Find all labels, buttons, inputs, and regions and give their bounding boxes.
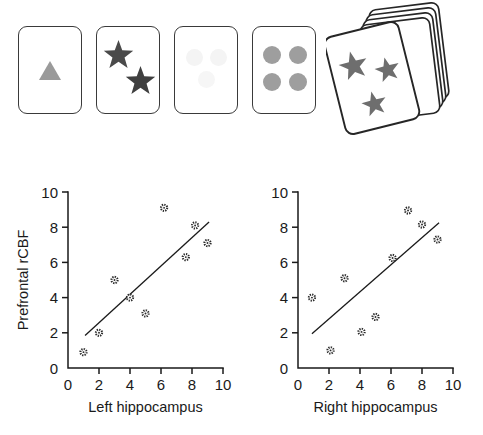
y-tick-label: 10 <box>41 184 58 201</box>
data-point-center <box>361 331 363 333</box>
card-deck <box>326 2 481 147</box>
data-point <box>341 275 347 281</box>
card-faint-shapes <box>174 26 238 114</box>
y-tick-label: 10 <box>271 184 288 201</box>
circle-shape <box>186 49 203 66</box>
data-point <box>204 240 210 246</box>
star-shape <box>125 66 156 97</box>
x-tick-label: 0 <box>64 376 72 393</box>
circle-shape <box>289 46 307 64</box>
circle-shape <box>210 49 227 66</box>
x-tick-label: 8 <box>418 376 426 393</box>
x-tick-label: 10 <box>445 376 462 393</box>
right-hippocampus-scatter-graphic: 02468100246810Right hippocampus <box>240 178 483 428</box>
data-point <box>127 295 133 301</box>
data-point <box>405 207 411 213</box>
x-tick-label: 4 <box>356 376 364 393</box>
x-tick-label: 0 <box>294 376 302 393</box>
circle-shape <box>198 71 215 88</box>
data-point-center <box>163 207 165 209</box>
axes <box>298 192 453 368</box>
data-point-center <box>114 279 116 281</box>
x-tick-label: 8 <box>188 376 196 393</box>
data-point <box>327 347 333 353</box>
card-triangle-shapes <box>19 27 81 113</box>
data-point <box>161 205 167 211</box>
y-tick-label: 2 <box>50 324 58 341</box>
y-tick-label: 8 <box>50 219 58 236</box>
data-point-center <box>185 256 187 258</box>
data-point-center <box>392 257 394 259</box>
scatter-chart-right: 02468100246810Right hippocampus <box>240 178 483 428</box>
x-axis-title: Left hippocampus <box>88 399 202 415</box>
circle-shape <box>263 73 281 91</box>
data-point <box>80 349 86 355</box>
data-point-center <box>407 210 409 212</box>
data-point <box>419 221 425 227</box>
data-point-center <box>207 242 209 244</box>
data-point <box>434 236 440 242</box>
data-point-center <box>330 349 332 351</box>
data-point <box>389 255 395 261</box>
left-hippocampus-scatter-graphic: 02468100246810Left hippocampusPrefrontal… <box>0 178 250 428</box>
data-point <box>96 330 102 336</box>
y-tick-label: 4 <box>50 289 58 306</box>
card-triangle <box>18 26 82 114</box>
regression-line <box>85 222 209 336</box>
data-point <box>372 314 378 320</box>
x-tick-label: 4 <box>126 376 134 393</box>
data-point <box>192 222 198 228</box>
data-point-center <box>145 312 147 314</box>
card-four-circles-shapes <box>253 27 315 113</box>
data-point <box>358 329 364 335</box>
x-tick-label: 6 <box>387 376 395 393</box>
x-tick-label: 10 <box>215 376 232 393</box>
circle-shape <box>263 46 281 64</box>
y-tick-label: 6 <box>280 254 288 271</box>
y-tick-label: 2 <box>280 324 288 341</box>
y-tick-label: 4 <box>280 289 288 306</box>
data-point <box>142 310 148 316</box>
data-point-center <box>98 332 100 334</box>
data-point-center <box>421 224 423 226</box>
data-point-center <box>83 351 85 353</box>
data-point <box>183 254 189 260</box>
data-point <box>309 295 315 301</box>
scatter-chart-left: 02468100246810Left hippocampusPrefrontal… <box>0 178 250 428</box>
data-point-center <box>375 316 377 318</box>
y-tick-label: 8 <box>280 219 288 236</box>
y-tick-label: 0 <box>50 360 58 377</box>
deck-graphic <box>326 2 481 147</box>
y-tick-label: 0 <box>280 360 288 377</box>
card-faint-shapes-shapes <box>175 27 237 113</box>
circle-shape <box>289 73 307 91</box>
data-point-center <box>344 277 346 279</box>
data-point-center <box>311 297 313 299</box>
triangle-shape <box>39 61 61 80</box>
x-tick-label: 6 <box>157 376 165 393</box>
data-point-center <box>129 297 131 299</box>
card-two-stars-shapes <box>97 27 159 113</box>
y-axis-title: Prefrontal rCBF <box>15 230 31 331</box>
data-point <box>111 277 117 283</box>
data-point-center <box>437 239 439 241</box>
x-axis-title: Right hippocampus <box>313 399 437 415</box>
x-tick-label: 2 <box>95 376 103 393</box>
card-four-circles <box>252 26 316 114</box>
data-point-center <box>194 224 196 226</box>
y-tick-label: 6 <box>50 254 58 271</box>
stimulus-panel <box>0 0 483 150</box>
x-tick-label: 2 <box>325 376 333 393</box>
card-two-stars <box>96 26 160 114</box>
